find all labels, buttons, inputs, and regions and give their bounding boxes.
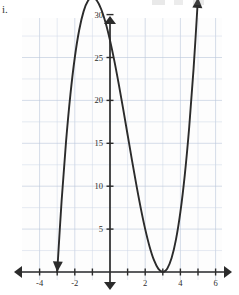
scan-artifact	[152, 0, 212, 5]
x-tick-label: 2	[143, 278, 147, 288]
x-tick-label: -4	[36, 278, 44, 288]
y-tick-label: 20	[95, 95, 104, 105]
y-tick-label: 5	[99, 224, 103, 234]
y-tick-label: 15	[95, 138, 104, 148]
cubic-function-plot: -4-224651015202530	[0, 0, 239, 295]
x-tick-label: -2	[71, 278, 78, 288]
x-tick-label: 4	[178, 278, 183, 288]
y-tick-label: 10	[95, 181, 104, 191]
graph-figure: i. -4-224651015202530	[0, 0, 239, 295]
y-tick-label: 25	[95, 53, 104, 63]
x-tick-label: 6	[213, 278, 217, 288]
item-label: i.	[2, 4, 8, 15]
